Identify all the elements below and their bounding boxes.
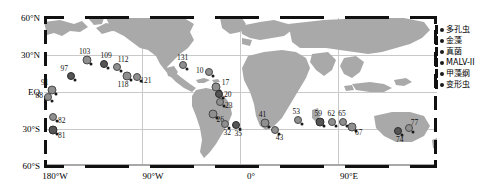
- frame-bottom-seg-1: [44, 165, 64, 168]
- frame-right-seg-8: [434, 160, 437, 166]
- legend-label: 甲藻纲: [446, 70, 470, 78]
- data-point-sub-marker: [51, 99, 54, 102]
- data-point-label: 53: [293, 109, 301, 117]
- data-point-label: 10: [196, 68, 204, 76]
- frame-right-seg-5: [434, 96, 437, 110]
- x-tick-90w: 90°W: [123, 172, 183, 181]
- frame-bottom-seg-5: [280, 165, 324, 168]
- legend-marker-icon: [440, 50, 444, 54]
- frame-left-seg-7: [44, 140, 47, 154]
- data-point-sub-marker: [74, 78, 77, 81]
- x-tick-0: 0°: [221, 172, 281, 181]
- data-point-label: 77: [411, 119, 419, 127]
- data-point-sub-marker: [335, 124, 338, 127]
- legend-item-4[interactable]: 甲藻纲: [440, 68, 498, 79]
- data-point-sub-marker: [107, 66, 110, 69]
- frame-bottom-seg-2: [85, 165, 129, 168]
- data-point-sub-marker: [411, 130, 414, 133]
- legend-marker-icon: [440, 39, 444, 43]
- data-point-sub-marker: [89, 62, 92, 65]
- legend-bar-icon: [435, 25, 438, 34]
- y-tick-60n: 60°N: [21, 14, 40, 23]
- data-point-label: 65: [338, 110, 346, 118]
- frame-left-seg-1: [44, 16, 47, 24]
- frame-left-seg-6: [44, 118, 47, 132]
- data-point-label: 112: [118, 57, 129, 65]
- data-point-sub-marker: [211, 75, 214, 78]
- y-tick-60s: 60°S: [22, 162, 40, 171]
- frame-left-seg-8: [44, 160, 47, 166]
- map-plot-area: [44, 18, 437, 166]
- frame-bottom-seg-4: [215, 165, 259, 168]
- x-tick-180w: 180°W: [25, 172, 85, 181]
- data-point-label: 67: [355, 129, 363, 137]
- legend-bar-icon: [435, 80, 438, 89]
- frame-top-seg-2: [85, 16, 129, 19]
- data-point-label: 88: [36, 92, 44, 100]
- data-point-sub-marker: [301, 123, 304, 126]
- legend-marker-icon: [440, 28, 444, 32]
- data-point-label: 121: [140, 77, 151, 85]
- data-point-label: 35: [234, 131, 242, 139]
- legend-bar-icon: [435, 58, 438, 67]
- legend-bar-icon: [435, 69, 438, 78]
- frame-left-seg-3: [44, 52, 47, 66]
- frame-top-seg-4: [215, 16, 259, 19]
- data-point-label: 41: [259, 111, 267, 119]
- y-tick-30s: 30°S: [22, 125, 40, 134]
- data-point-label: 17: [222, 79, 230, 87]
- legend-item-2[interactable]: 真菌: [440, 46, 498, 57]
- data-point-sub-marker: [129, 78, 132, 81]
- frame-top-seg-3: [150, 16, 194, 19]
- data-point-label: 97: [61, 65, 69, 73]
- data-point-label: 43: [276, 134, 284, 142]
- frame-right-seg-6: [434, 118, 437, 132]
- legend-item-3[interactable]: MALV-II: [440, 57, 498, 68]
- data-point-label: 74: [396, 137, 404, 145]
- legend-marker-icon: [440, 61, 444, 65]
- legend-label: 多孔虫: [446, 26, 470, 34]
- frame-right-seg-1: [434, 16, 437, 24]
- legend-label: MALV-II: [446, 59, 475, 67]
- legend-bar-icon: [435, 47, 438, 56]
- legend-label: 变形虫: [446, 81, 470, 89]
- data-point-label: 103: [79, 48, 90, 56]
- legend-item-0[interactable]: 多孔虫: [440, 24, 498, 35]
- legend-marker-icon: [440, 83, 444, 87]
- data-point-label: 91: [41, 79, 49, 87]
- data-point-sub-marker: [267, 125, 270, 128]
- data-point-sub-marker: [54, 92, 57, 95]
- frame-bottom-seg-3: [150, 165, 194, 168]
- frame-top-seg-6: [345, 16, 389, 19]
- data-point-label: 81: [58, 132, 66, 140]
- legend-marker-icon: [440, 72, 444, 76]
- data-point-label: 62: [327, 110, 335, 118]
- legend-label: 真菌: [446, 48, 462, 56]
- data-point-label: 82: [58, 117, 66, 125]
- frame-left-seg-2: [44, 30, 47, 44]
- data-point-label: 118: [117, 81, 128, 89]
- x-tick-90e: 90°E: [319, 172, 379, 181]
- world-map-scatter-chart: 60°N 30°N EQ 30°S 60°S 180°W 90°W 0° 90°…: [0, 0, 498, 191]
- frame-top-seg-5: [280, 16, 324, 19]
- frame-top-seg-7: [410, 16, 437, 19]
- data-point-label: 109: [100, 52, 111, 60]
- y-tick-30n: 30°N: [21, 51, 40, 60]
- frame-right-seg-7: [434, 140, 437, 154]
- legend-item-1[interactable]: 金藻: [440, 35, 498, 46]
- data-point-label: 32: [223, 129, 231, 137]
- frame-bottom-seg-6: [345, 165, 389, 168]
- legend-bar-icon: [435, 36, 438, 45]
- data-point-label: 59: [314, 110, 322, 118]
- data-point-sub-marker: [323, 124, 326, 127]
- frame-bottom-seg-7: [410, 165, 437, 168]
- legend: 多孔虫 金藻 真菌 MALV-II 甲藻纲 变形虫: [440, 24, 498, 90]
- land-masses: [44, 18, 437, 166]
- data-point-label: 131: [177, 54, 188, 62]
- legend-label: 金藻: [446, 37, 462, 45]
- data-point-label: 23: [225, 102, 233, 110]
- data-point-sub-marker: [120, 70, 123, 73]
- data-point-sub-marker: [185, 67, 188, 70]
- frame-top-seg-1: [44, 16, 64, 19]
- legend-item-5[interactable]: 变形虫: [440, 79, 498, 90]
